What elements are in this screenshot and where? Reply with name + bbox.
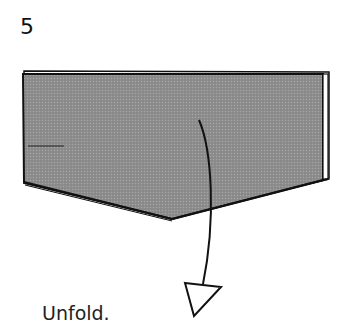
paper-front-layer	[23, 74, 328, 221]
origami-diagram	[0, 0, 351, 336]
instruction-caption: Unfold.	[42, 302, 110, 324]
